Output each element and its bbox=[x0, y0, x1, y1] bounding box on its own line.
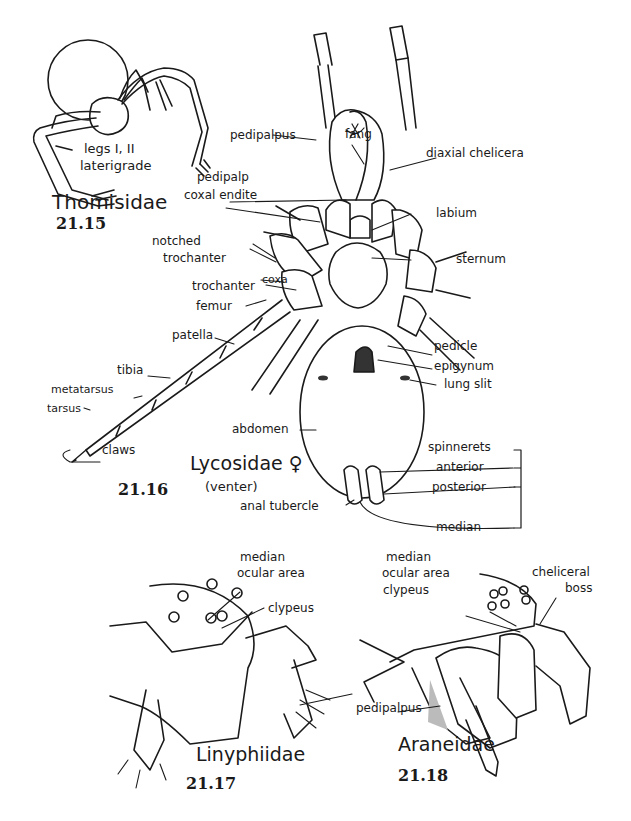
label-median-2117: median bbox=[240, 551, 285, 564]
label-pedipalpus-2118: pedipalpus bbox=[356, 702, 422, 715]
label-ocular-area-2118: ocular area bbox=[382, 567, 450, 580]
label-laterigrade: laterigrade bbox=[80, 159, 151, 172]
label-trochanter-notched: trochanter bbox=[163, 252, 226, 265]
family-name-thomisidae: Thomisidae bbox=[52, 190, 167, 214]
figure-number-21-16: 21.16 bbox=[118, 480, 168, 499]
label-pedicle: pedicle bbox=[434, 340, 477, 353]
label-lung-slit: lung slit bbox=[444, 378, 492, 391]
label-spinnerets: spinnerets bbox=[428, 441, 491, 454]
label-trochanter: trochanter bbox=[192, 280, 255, 293]
label-venter: (venter) bbox=[205, 479, 258, 494]
label-pedipalpus: pedipalpus bbox=[230, 129, 296, 142]
label-claws: claws bbox=[102, 444, 135, 457]
label-median: median bbox=[436, 521, 481, 534]
label-posterior: posterior bbox=[432, 481, 486, 494]
thomisidae-drawing bbox=[34, 40, 210, 206]
family-name-araneidae: Araneidae bbox=[398, 733, 495, 755]
label-tibia: tibia bbox=[117, 364, 143, 377]
label-sternum: sternum bbox=[456, 253, 506, 266]
figure-number-21-17: 21.17 bbox=[186, 774, 236, 793]
label-tarsus: tarsus bbox=[47, 402, 81, 415]
label-clypeus-2118: clypeus bbox=[383, 584, 429, 597]
label-anterior: anterior bbox=[436, 461, 484, 474]
label-median-2118: median bbox=[386, 551, 431, 564]
label-coxa: coxa bbox=[262, 273, 288, 286]
label-fang: fang bbox=[345, 128, 372, 141]
label-epigynum: epigynum bbox=[434, 360, 494, 373]
label-cheliceral: cheliceral bbox=[532, 566, 590, 579]
label-ocular-area-2117: ocular area bbox=[237, 567, 305, 580]
label-boss: boss bbox=[565, 582, 592, 595]
label-metatarsus: metatarsus bbox=[51, 383, 114, 396]
figure-number-21-15: 21.15 bbox=[56, 214, 106, 233]
label-anal-tubercle: anal tubercle bbox=[240, 500, 319, 513]
label-pedipalp: pedipalp bbox=[197, 171, 249, 184]
label-abdomen: abdomen bbox=[232, 423, 289, 436]
label-coxal-endite: coxal endite bbox=[184, 189, 257, 202]
family-name-lycosidae: Lycosidae ♀ bbox=[190, 452, 303, 474]
family-name-linyphiidae: Linyphiidae bbox=[196, 743, 305, 765]
label-femur: femur bbox=[196, 300, 232, 313]
label-labium: labium bbox=[436, 207, 477, 220]
label-patella: patella bbox=[172, 329, 213, 342]
label-legs-i-ii: legs I, II bbox=[84, 142, 135, 155]
label-notched: notched bbox=[152, 235, 201, 248]
figure-number-21-18: 21.18 bbox=[398, 766, 448, 785]
spider-illustrations bbox=[0, 0, 631, 821]
label-diaxial-chelicera: diaxial chelicera bbox=[426, 147, 524, 160]
label-clypeus-2117: clypeus bbox=[268, 602, 314, 615]
